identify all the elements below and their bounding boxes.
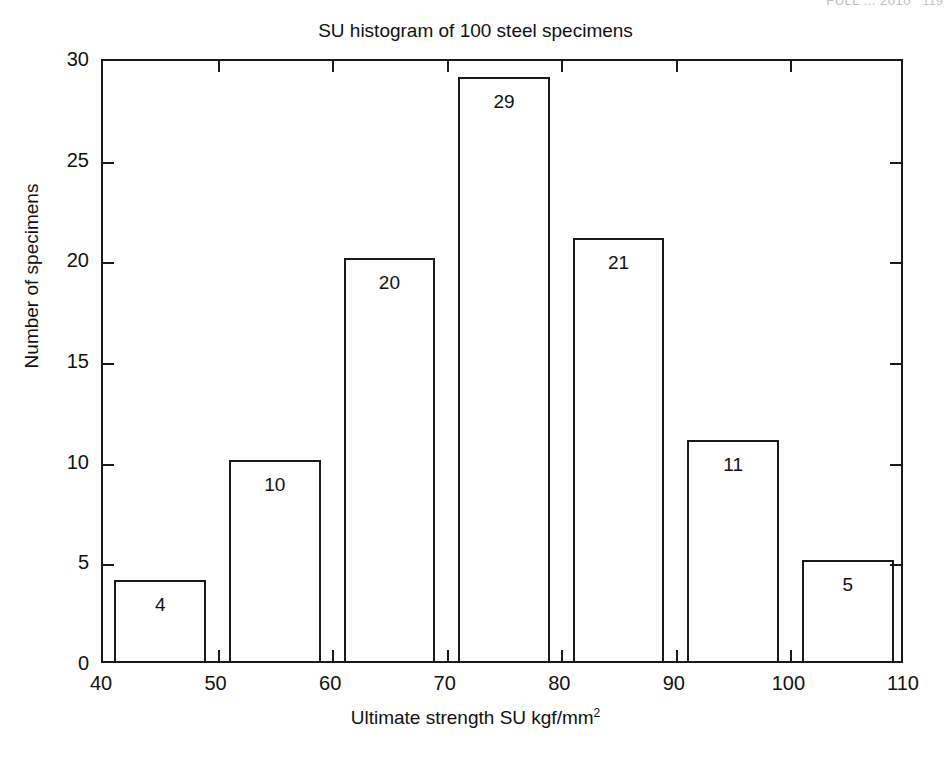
x-axis-tick-label: 80: [519, 672, 599, 695]
x-axis-tick: [332, 650, 334, 661]
x-axis-title: Ultimate strength SU kgf/mm2: [0, 706, 951, 729]
histogram-bar: 21: [573, 238, 665, 661]
y-axis-tick-label: 5: [25, 551, 89, 574]
x-axis-tick-top: [218, 61, 220, 72]
x-axis-tick: [676, 650, 678, 661]
x-axis-tick-top: [561, 61, 563, 72]
histogram-bar: 11: [687, 440, 779, 661]
bar-value-label: 4: [116, 594, 204, 616]
y-axis-tick-label: 25: [25, 148, 89, 171]
x-axis-tick-label: 60: [290, 672, 370, 695]
x-axis-tick: [447, 650, 449, 661]
y-axis-tick-label: 15: [25, 350, 89, 373]
bar-value-label: 5: [804, 574, 892, 596]
histogram-bar: 10: [229, 460, 321, 661]
y-axis-tick: [103, 363, 114, 365]
x-axis-tick-label: 40: [61, 672, 141, 695]
bar-value-label: 20: [346, 272, 434, 294]
histogram-figure: SU histogram of 100 steel specimens Numb…: [0, 0, 951, 757]
histogram-bar: 20: [344, 258, 436, 661]
x-axis-tick-label: 100: [748, 672, 828, 695]
y-axis-tick-right: [890, 464, 901, 466]
x-axis-tick-label: 70: [405, 672, 485, 695]
y-axis-tick: [103, 262, 114, 264]
x-axis-tick-labels: 405060708090100110: [101, 672, 903, 702]
y-axis-tick-label: 20: [25, 249, 89, 272]
histogram-bar: 29: [458, 77, 550, 661]
y-axis-tick-right: [890, 262, 901, 264]
histogram-bar: 5: [802, 560, 894, 661]
y-axis-tick-right: [890, 162, 901, 164]
y-axis-tick-labels: 051015202530: [23, 59, 89, 663]
x-axis-tick-top: [790, 61, 792, 72]
y-axis-tick: [103, 162, 114, 164]
chart-title: SU histogram of 100 steel specimens: [0, 20, 951, 42]
y-axis-tick-label: 30: [25, 48, 89, 71]
x-axis-title-superscript: 2: [594, 706, 601, 720]
x-axis-tick-label: 90: [634, 672, 714, 695]
bar-value-label: 21: [575, 252, 663, 274]
x-axis-tick: [218, 650, 220, 661]
histogram-bar: 4: [114, 580, 206, 661]
x-axis-title-text: Ultimate strength SU kgf/mm: [351, 707, 594, 728]
y-axis-tick: [103, 564, 114, 566]
x-axis-tick-label: 110: [863, 672, 943, 695]
plot-area: 410202921115: [101, 59, 903, 663]
x-axis-tick-top: [676, 61, 678, 72]
bar-value-label: 11: [689, 454, 777, 476]
x-axis-tick-label: 50: [176, 672, 256, 695]
y-axis-tick-label: 10: [25, 450, 89, 473]
x-axis-tick: [561, 650, 563, 661]
x-axis-tick-top: [447, 61, 449, 72]
x-axis-tick-top: [332, 61, 334, 72]
y-axis-tick: [103, 464, 114, 466]
bar-value-label: 10: [231, 474, 319, 496]
y-axis-tick-right: [890, 564, 901, 566]
x-axis-tick: [790, 650, 792, 661]
bar-value-label: 29: [460, 91, 548, 113]
y-axis-tick-right: [890, 363, 901, 365]
